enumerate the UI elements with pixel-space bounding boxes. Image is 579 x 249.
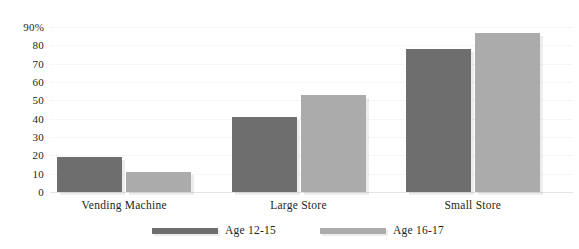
legend-label: Age 12-15 <box>225 224 276 237</box>
plot-area <box>50 20 573 192</box>
legend-label: Age 16-17 <box>393 224 444 237</box>
y-axis-tick-label: 20 <box>0 150 44 161</box>
bar-slot <box>126 20 191 192</box>
bar-slot <box>475 20 540 192</box>
y-axis-tick-label: 0 <box>0 187 44 198</box>
bar-slot <box>406 20 471 192</box>
x-axis: Vending MachineLarge StoreSmall Store <box>50 198 573 216</box>
bar-slot <box>57 20 122 192</box>
legend-entry[interactable]: Age 16-17 <box>320 224 444 237</box>
y-axis-tick-label: 40 <box>0 114 44 125</box>
x-axis-category-label: Small Store <box>376 198 570 212</box>
legend-swatch <box>152 228 218 234</box>
y-axis-tick-label: 50 <box>0 95 44 106</box>
bar-group <box>57 20 191 192</box>
bar <box>475 33 540 193</box>
bar <box>301 95 366 192</box>
y-axis-tick-label: 30 <box>0 132 44 143</box>
bar-chart: 90% 80 70 60 50 40 30 20 10 0 Vending Ma… <box>0 0 579 249</box>
y-axis-tick-label: 10 <box>0 169 44 180</box>
y-axis-tick-label: 70 <box>0 59 44 70</box>
bar <box>57 157 122 192</box>
bar-group <box>406 20 540 192</box>
legend-entry[interactable]: Age 12-15 <box>152 224 276 237</box>
chart-legend: Age 12-15Age 16-17 <box>0 224 579 242</box>
bar <box>232 117 297 192</box>
bar-slot <box>301 20 366 192</box>
bar-slot <box>232 20 297 192</box>
y-axis: 90% 80 70 60 50 40 30 20 10 0 <box>0 20 44 192</box>
legend-swatch <box>320 228 386 234</box>
y-axis-tick-label: 90% <box>0 22 44 33</box>
bar <box>406 49 471 192</box>
bar-group <box>232 20 366 192</box>
y-axis-tick-label: 80 <box>0 40 44 51</box>
axis-baseline <box>50 192 573 193</box>
y-axis-tick-label: 60 <box>0 77 44 88</box>
bar <box>126 172 191 192</box>
x-axis-category-label: Large Store <box>202 198 396 212</box>
x-axis-category-label: Vending Machine <box>27 198 221 212</box>
